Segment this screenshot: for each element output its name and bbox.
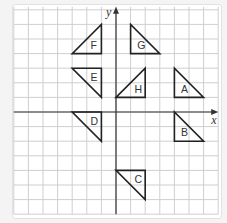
x-axis-label: x [210, 113, 217, 127]
triangle-label: H [134, 83, 142, 95]
coordinate-grid: x y ABCDEFGH [0, 0, 227, 223]
triangle-label: E [91, 71, 98, 83]
triangle-label: F [91, 39, 97, 51]
triangle-label: D [91, 115, 99, 127]
triangle-label: G [137, 39, 145, 51]
triangle-label: B [181, 126, 188, 138]
triangle-label: A [181, 83, 188, 95]
y-axis-label: y [105, 5, 112, 19]
triangle-label: C [134, 173, 142, 185]
